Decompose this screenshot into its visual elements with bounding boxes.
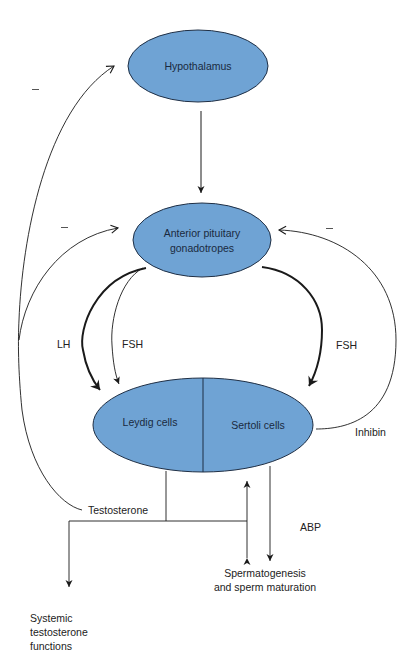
sertoli-label: Sertoli cells: [206, 418, 310, 433]
systemic-functions-label: Systemic testosterone functions: [30, 611, 88, 653]
testosterone-to-hypothalamus-arrow: [19, 66, 114, 320]
fsh-left-arrow: [112, 268, 143, 384]
testosterone-label: Testosterone: [88, 503, 148, 517]
hypothalamus-label: Hypothalamus: [128, 59, 268, 74]
systemic-line2: testosterone: [30, 625, 88, 639]
hypothalamus-negative-sign: [32, 89, 39, 90]
pituitary-left-negative-sign: [61, 227, 68, 228]
inhibin-feedback-arrow: [279, 230, 396, 429]
inhibin-label: Inhibin: [355, 425, 386, 439]
testosterone-feedback-trunk: [18, 320, 82, 510]
spermatogenesis-line2: and sperm maturation: [206, 580, 324, 594]
fsh-right-label: FSH: [336, 338, 357, 352]
spermatogenesis-line1: Spermatogenesis: [206, 566, 324, 580]
pituitary-label-line1: Anterior pituitary: [133, 226, 271, 241]
systemic-line3: functions: [30, 639, 88, 653]
systemic-line1: Systemic: [30, 611, 88, 625]
spermatogenesis-label: Spermatogenesis and sperm maturation: [206, 566, 324, 594]
lh-arrow: [82, 268, 146, 390]
lh-label: LH: [57, 337, 70, 351]
pituitary-label: Anterior pituitary gonadotropes: [133, 226, 271, 255]
abp-label: ABP: [300, 520, 321, 534]
leydig-label: Leydig cells: [100, 415, 200, 430]
testosterone-to-pituitary-arrow: [19, 228, 118, 340]
diagram-canvas: [0, 0, 410, 664]
fsh-right-arrow: [262, 267, 322, 386]
pituitary-label-line2: gonadotropes: [133, 241, 271, 256]
fsh-left-label: FSH: [122, 337, 143, 351]
pituitary-right-negative-sign: [326, 228, 333, 229]
